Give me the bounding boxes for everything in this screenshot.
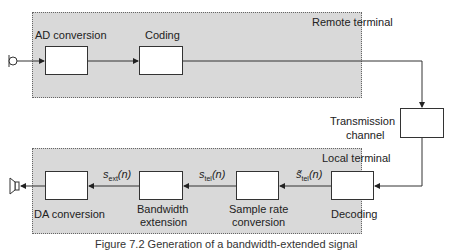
speaker-icon — [10, 178, 19, 194]
figure-caption: Figure 7.2 Generation of a bandwidth-ext… — [95, 238, 357, 250]
microphone-icon — [9, 55, 17, 67]
